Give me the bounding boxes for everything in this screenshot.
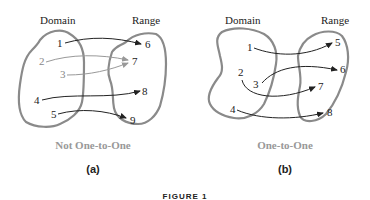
range-elem-8: 8 bbox=[142, 85, 148, 97]
title-b: One-to-One bbox=[257, 139, 313, 151]
domain-label-b: Domain bbox=[225, 14, 261, 26]
range-label-a: Range bbox=[132, 14, 160, 26]
domain-elem-3: 3 bbox=[253, 78, 259, 90]
domain-elem-2: 2 bbox=[39, 55, 45, 67]
range-elem-7: 7 bbox=[132, 55, 138, 67]
function-diagram: Domain Range 1 2 3 4 5 6 7 8 9 Not One-t… bbox=[0, 0, 370, 200]
sublabel-b: (b) bbox=[278, 163, 292, 175]
domain-elem-1: 1 bbox=[57, 37, 63, 49]
range-elem-5: 5 bbox=[335, 36, 341, 48]
range-elem-6: 6 bbox=[145, 38, 151, 50]
range-blob-b bbox=[298, 32, 348, 122]
domain-elem-4: 4 bbox=[230, 103, 236, 115]
arrow-4-to-8 bbox=[42, 91, 140, 100]
panel-b: Domain Range 1 2 3 4 5 6 7 8 One-to-One … bbox=[209, 14, 350, 175]
domain-elem-1: 1 bbox=[247, 41, 253, 53]
domain-elem-4: 4 bbox=[34, 94, 40, 106]
range-elem-6: 6 bbox=[340, 63, 346, 75]
range-elem-8: 8 bbox=[327, 106, 333, 118]
domain-elem-3: 3 bbox=[60, 68, 66, 80]
figure-caption: FIGURE 1 bbox=[163, 192, 208, 200]
domain-elem-5: 5 bbox=[51, 108, 57, 120]
range-label-b: Range bbox=[321, 14, 349, 26]
domain-elem-2: 2 bbox=[238, 66, 244, 78]
range-blob-a bbox=[108, 33, 166, 124]
arrow-2-to-7 bbox=[46, 56, 128, 62]
panel-a: Domain Range 1 2 3 4 5 6 7 8 9 Not One-t… bbox=[19, 14, 166, 175]
title-a: Not One-to-One bbox=[55, 139, 131, 151]
arrow-1-to-5 bbox=[254, 43, 332, 54]
domain-label-a: Domain bbox=[40, 14, 76, 26]
arrow-3-to-7 bbox=[67, 63, 128, 75]
sublabel-a: (a) bbox=[86, 163, 100, 175]
range-elem-9: 9 bbox=[130, 114, 136, 126]
range-elem-7: 7 bbox=[318, 80, 324, 92]
